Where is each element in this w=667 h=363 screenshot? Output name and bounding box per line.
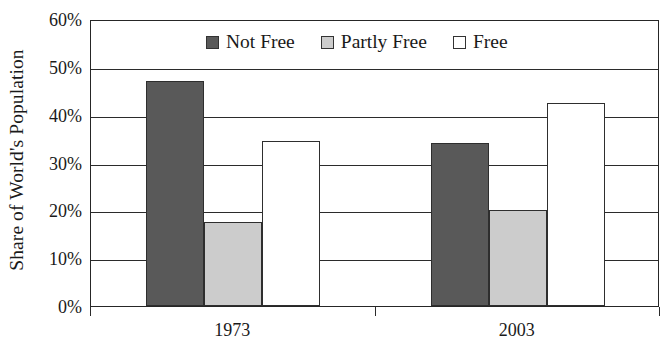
y-axis-tick-label: 30% (49, 155, 82, 173)
legend-label: Not Free (226, 32, 295, 52)
legend-item: Not Free (206, 32, 295, 52)
y-axis-tick-label: 0% (58, 298, 82, 316)
bar (262, 141, 320, 306)
legend-item: Free (453, 32, 508, 52)
x-axis-category-label: 1973 (214, 320, 250, 341)
legend-swatch-not-free (206, 36, 219, 49)
x-axis-tick (375, 307, 376, 316)
x-axis-tick (659, 307, 660, 316)
y-axis-tick-labels: 0%10%20%30%40%50%60% (32, 20, 86, 307)
bars-layer (91, 21, 658, 306)
y-axis-tick-label: 40% (49, 107, 82, 125)
bar (431, 143, 489, 306)
y-axis-tick-label: 60% (49, 11, 82, 29)
y-axis-tick-label: 50% (49, 59, 82, 77)
x-axis-tick (90, 307, 91, 316)
bar (489, 210, 547, 306)
plot-area (90, 20, 659, 307)
bar (547, 103, 605, 306)
legend-swatch-partly-free (321, 36, 334, 49)
legend-label: Partly Free (341, 32, 427, 52)
y-axis-tick-label: 10% (49, 250, 82, 268)
legend-label: Free (473, 32, 508, 52)
bar (204, 222, 262, 306)
y-axis-title: Share of World's Population (4, 5, 30, 315)
legend-item: Partly Free (321, 32, 427, 52)
y-axis-tick-label: 20% (49, 202, 82, 220)
bar-chart: Share of World's Population 0%10%20%30%4… (0, 0, 667, 363)
legend-swatch-free (453, 36, 466, 49)
chart-legend: Not FreePartly FreeFree (206, 29, 508, 55)
bar (146, 81, 204, 306)
x-axis-category-label: 2003 (499, 320, 535, 341)
